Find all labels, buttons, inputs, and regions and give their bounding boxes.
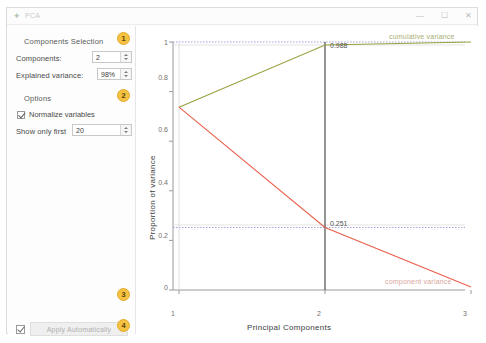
- explained-variance-value: 98%: [98, 71, 120, 78]
- apply-checkbox-icon[interactable]: [16, 325, 25, 334]
- legend-cumulative-variance: cumulative variance: [389, 33, 455, 40]
- components-value: 2: [93, 54, 120, 61]
- show-only-first-value: 20: [73, 127, 120, 134]
- show-only-first-stepper[interactable]: 20: [72, 124, 132, 136]
- pca-window: ✦ PCA — ☐ ✕ Components Selection Compone…: [6, 7, 478, 334]
- badge-4: 4: [117, 319, 130, 332]
- show-first-decrement-icon[interactable]: [121, 130, 131, 135]
- normalize-variables-label: Normalize variables: [29, 110, 95, 119]
- components-selection-title: Components Selection: [24, 37, 103, 46]
- badge-3: 3: [117, 288, 130, 301]
- show-first-stepper-arrows[interactable]: [120, 125, 131, 135]
- components-stepper[interactable]: 2: [92, 51, 132, 63]
- legend-component-variance: component variance: [385, 278, 452, 285]
- normalize-variables-checkbox[interactable]: Normalize variables: [17, 110, 95, 119]
- maximize-icon[interactable]: ☐: [439, 11, 449, 21]
- xtick-1: 1: [163, 310, 183, 317]
- xtick-2: 2: [309, 310, 329, 317]
- window-title: PCA: [25, 12, 40, 19]
- apply-automatically-button[interactable]: Apply Automatically: [30, 322, 128, 336]
- explained-variance-stepper-arrows[interactable]: [120, 69, 131, 79]
- annotation-cumulative: 0.988: [330, 42, 348, 49]
- badge-1: 1: [117, 32, 130, 45]
- options-title: Options: [24, 94, 51, 103]
- plot-svg: [173, 42, 465, 306]
- components-label: Components:: [16, 54, 62, 63]
- close-icon[interactable]: ✕: [463, 11, 473, 21]
- app-root: ✦ PCA — ☐ ✕ Components Selection Compone…: [0, 0, 486, 343]
- window-titlebar: ✦ PCA — ☐ ✕: [7, 8, 477, 25]
- minimize-icon[interactable]: —: [415, 11, 425, 21]
- checkbox-icon[interactable]: [17, 111, 25, 119]
- explained-decrement-icon[interactable]: [121, 74, 131, 79]
- window-controls: — ☐ ✕: [415, 11, 473, 21]
- components-decrement-icon[interactable]: [121, 57, 131, 62]
- pca-variance-chart: 0 0.2 0.4 0.6 0.8 1 1 2 3 Principal Comp…: [136, 26, 478, 334]
- app-icon: ✦: [13, 12, 22, 21]
- ytick-1: 1: [142, 39, 168, 46]
- annotation-component: 0.251: [330, 220, 348, 227]
- ytick-0: 0: [142, 284, 168, 291]
- explained-variance-label: Explained variance:: [16, 71, 83, 80]
- control-panel: Components Selection Components: 2 Expla…: [8, 26, 136, 334]
- ytick-0.8: 0.8: [142, 74, 168, 81]
- x-axis-title: Principal Components: [247, 323, 331, 332]
- explained-variance-stepper[interactable]: 98%: [97, 68, 132, 80]
- show-only-first-label: Show only first: [16, 127, 66, 136]
- xtick-3: 3: [455, 310, 475, 317]
- apply-automatically-row[interactable]: Apply Automatically: [16, 322, 128, 336]
- plot-area: 0.988 0.251 cumulative variance componen…: [173, 42, 465, 306]
- badge-2: 2: [117, 89, 130, 102]
- y-axis-title: Proportion of variance: [148, 155, 157, 240]
- ytick-0.6: 0.6: [142, 126, 168, 133]
- components-stepper-arrows[interactable]: [120, 52, 131, 62]
